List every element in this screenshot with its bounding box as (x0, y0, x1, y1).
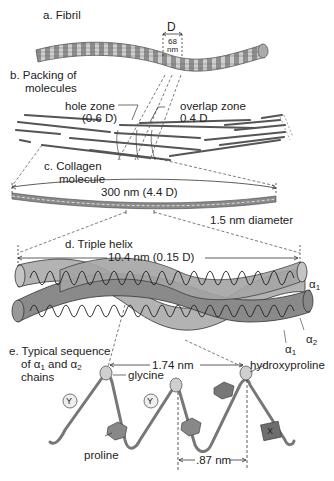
residue-y2: Y (147, 395, 153, 408)
panel-a-label: a. Fibril (43, 9, 81, 22)
overlap-zone-value: 0.4 D (180, 112, 208, 125)
molecule-length-label: 300 nm (4.4 D) (101, 186, 178, 199)
panel-c-label-line1: c. Collagen (44, 160, 102, 173)
residue-x: X (267, 425, 273, 438)
panel-e-label-line3: chains (21, 371, 54, 384)
alpha2-label: α2 (306, 333, 317, 349)
y-residues (63, 394, 158, 408)
triple-helix (12, 258, 313, 330)
panel-b-label-line1: b. Packing of (10, 69, 76, 82)
hydroxyproline-label: hydroxyproline (250, 359, 325, 372)
proline-label: proline (84, 449, 119, 462)
panel-b-label-line2: molecules (25, 82, 77, 95)
glycine-label: glycine (128, 369, 164, 382)
molecule-diameter-label: 1.5 nm diameter (210, 214, 293, 227)
period-unit: nm (164, 46, 181, 54)
hole-zone-value: (0.6 D) (82, 112, 117, 125)
period-d-symbol: D (167, 21, 176, 34)
residue-y1: Y (66, 395, 72, 408)
pitch-label: 10.4 nm (0.15 D) (108, 251, 194, 264)
panel-e-label-line1: e. Typical sequence (9, 345, 110, 358)
molecule-packing (16, 115, 285, 160)
alpha1-top-label: α1 (309, 278, 320, 294)
residue-distance-label: .87 nm (196, 454, 231, 467)
panel-c-label-line2: molecule (59, 173, 105, 186)
panel-d-label: d. Triple helix (65, 238, 133, 251)
alpha1-bottom-label: α1 (285, 343, 296, 359)
fibril (36, 42, 268, 71)
